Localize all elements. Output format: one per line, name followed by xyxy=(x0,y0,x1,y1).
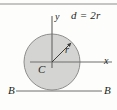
diameter-equation-label: d = 2r xyxy=(71,10,100,21)
x-axis-label: x xyxy=(104,56,108,66)
y-axis-label: y xyxy=(55,12,59,22)
radius-label: r xyxy=(65,45,69,55)
section-label-b-right: B xyxy=(104,85,111,96)
section-label-b-left: B xyxy=(8,85,15,96)
center-point-label: C xyxy=(38,64,45,75)
figure-container: y x C r d = 2r B B xyxy=(0,0,117,110)
